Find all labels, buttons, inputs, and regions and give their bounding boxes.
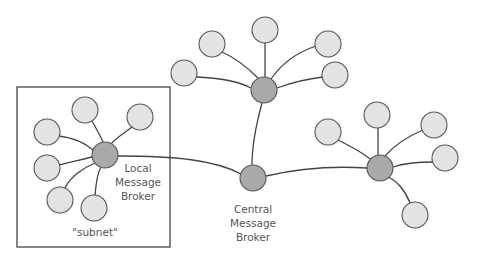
client-node bbox=[315, 31, 341, 57]
client-node bbox=[34, 119, 60, 145]
edge-right-central bbox=[266, 167, 367, 176]
client-node bbox=[127, 104, 153, 130]
client-node bbox=[364, 102, 390, 128]
client-node bbox=[432, 145, 458, 171]
local-broker-label: Local Message Broker bbox=[115, 162, 161, 202]
client-node bbox=[402, 202, 428, 228]
client-node bbox=[171, 60, 197, 86]
svg-text:Central: Central bbox=[234, 203, 272, 215]
svg-text:Message: Message bbox=[115, 176, 161, 188]
client-node bbox=[252, 17, 278, 43]
client-node bbox=[34, 155, 60, 181]
svg-text:Message: Message bbox=[230, 217, 276, 229]
svg-text:Broker: Broker bbox=[236, 231, 271, 243]
local-message-broker bbox=[92, 142, 118, 168]
edge-top-central bbox=[252, 103, 262, 165]
client-node bbox=[315, 119, 341, 145]
client-node bbox=[81, 195, 107, 221]
central-message-broker bbox=[240, 165, 266, 191]
network-diagram: Local Message Broker "subnet" Central Me… bbox=[0, 0, 477, 260]
client-node bbox=[47, 187, 73, 213]
client-node bbox=[421, 112, 447, 138]
central-broker-label: Central Message Broker bbox=[230, 203, 276, 243]
client-node bbox=[199, 31, 225, 57]
svg-text:Broker: Broker bbox=[121, 190, 156, 202]
client-node bbox=[322, 62, 348, 88]
subnet-label: "subnet" bbox=[72, 226, 118, 238]
svg-text:Local: Local bbox=[124, 162, 151, 174]
client-node bbox=[72, 97, 98, 123]
top-message-broker bbox=[251, 77, 277, 103]
right-message-broker bbox=[367, 155, 393, 181]
